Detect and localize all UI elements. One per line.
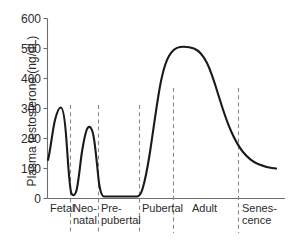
- stage-label-senescence: Senes- cence: [242, 203, 277, 226]
- stage-label-pubertal: Pubertal: [142, 203, 183, 215]
- stage-label-fetal-line1: Fetal: [50, 202, 74, 214]
- stage-label-adult: Adult: [192, 203, 217, 215]
- stage-label-senescence-line1: Senes-: [242, 202, 277, 214]
- stage-label-pubertal-line1: Pubertal: [142, 202, 183, 214]
- stage-label-adult-line1: Adult: [192, 202, 217, 214]
- stage-label-prepubertal-line1: Pre-: [101, 202, 122, 214]
- y-axis: [44, 19, 48, 199]
- stage-label-prepubertal: Pre- pubertal: [101, 203, 141, 226]
- testosterone-lifespan-chart: 600 500 400 300 200 100 0 Plasma testost…: [0, 0, 288, 241]
- stage-label-neonatal-line1: Neo-: [73, 202, 97, 214]
- stage-label-senescence-line2: cence: [242, 215, 277, 227]
- stage-label-prepubertal-line2: pubertal: [101, 215, 141, 227]
- stage-label-fetal: Fetal: [50, 203, 74, 215]
- stage-label-neonatal: Neo- natal: [73, 203, 97, 226]
- y-axis-title: Plasma testosterone (ng/dL): [25, 23, 39, 199]
- data-series-group: [48, 47, 276, 197]
- plasma-testosterone-curve: [48, 47, 276, 197]
- stage-label-neonatal-line2: natal: [73, 215, 97, 227]
